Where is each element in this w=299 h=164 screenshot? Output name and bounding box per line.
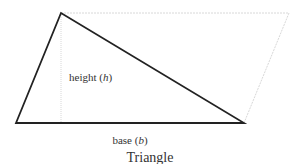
parallelogram-right-edge: [244, 13, 289, 123]
triangle-shape: [16, 13, 244, 123]
height-label: height (h): [69, 71, 112, 84]
diagram-title: Triangle: [127, 150, 174, 164]
triangle-diagram: height (h) base (b) Triangle: [0, 0, 299, 164]
base-label: base (b): [112, 134, 147, 147]
